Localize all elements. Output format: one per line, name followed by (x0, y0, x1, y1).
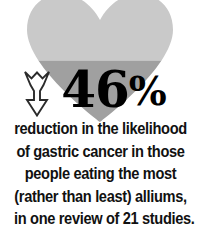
stat-unit: % (129, 67, 166, 114)
caption-line: (rather than least) alliums, (14, 186, 187, 209)
stat-number: 46 (61, 60, 129, 119)
stat-infographic: 46% reduction in the likelihood of gastr… (0, 0, 201, 243)
caption-block: reduction in the likelihood of gastric c… (0, 118, 201, 231)
caption-line: people eating the most (14, 163, 187, 186)
caption-line: in one review of 21 studies. (14, 208, 187, 231)
caption-line: of gastric cancer in those (14, 141, 187, 164)
heart-top-half (27, 0, 173, 61)
stat-value: 46% (0, 62, 201, 118)
caption-line: reduction in the likelihood (14, 118, 187, 141)
